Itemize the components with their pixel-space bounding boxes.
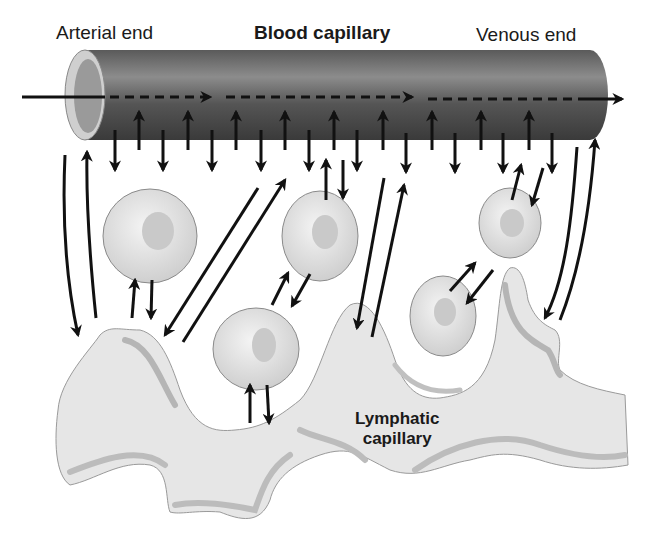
tissue-cell (282, 191, 358, 281)
blood-capillary (65, 50, 608, 140)
lymphatic-label-line2: capillary (355, 429, 439, 449)
diagram-canvas: Arterial end Blood capillary Venous end … (0, 0, 659, 555)
venous-end-label: Venous end (476, 24, 576, 46)
lymphatic-label-line1: Lymphatic (355, 409, 439, 429)
blood-capillary-label: Blood capillary (254, 22, 390, 44)
tissue-cell (479, 188, 541, 258)
tissue-cell (213, 308, 299, 390)
capillary-diagram (0, 0, 659, 555)
tissue-cell (410, 276, 476, 356)
arterial-end-label: Arterial end (56, 22, 153, 44)
lymphatic-capillary-label: Lymphatic capillary (355, 409, 439, 449)
tissue-cell (103, 189, 197, 283)
lymphatic-capillary (56, 268, 628, 519)
